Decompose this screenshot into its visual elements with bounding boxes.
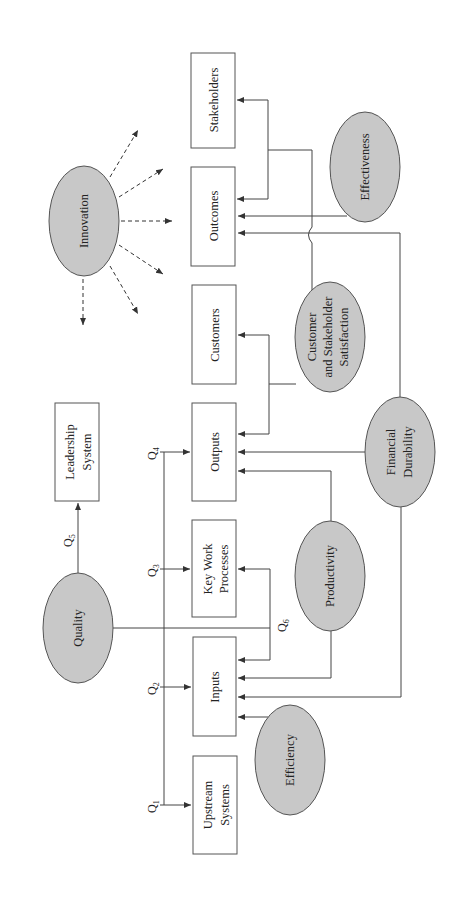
box-outputs: Outputs (192, 403, 236, 501)
kwp-label-line1: Key Work (201, 543, 215, 595)
satisfaction-label-line1: Customer (305, 312, 319, 361)
q2-label: Q2 (145, 682, 161, 695)
ellipse-quality: Quality (43, 573, 113, 683)
satisfaction-label-line2: and Stakeholder (321, 296, 335, 378)
stakeholders-label: Stakeholders (207, 68, 221, 133)
box-key-work-processes: Key Work Processes (192, 520, 236, 617)
upstream-label-line1: Upstream (201, 780, 215, 829)
ellipse-productivity: Productivity (295, 521, 365, 631)
box-customers: Customers (192, 285, 236, 384)
ellipse-financial-durability: Financial Durability (365, 397, 435, 507)
efficiency-label: Efficiency (283, 733, 297, 786)
outcomes-label: Outcomes (207, 191, 221, 242)
inputs-label: Inputs (208, 671, 222, 702)
outputs-label: Outputs (208, 432, 222, 472)
ellipse-innovation: Innovation (49, 166, 119, 276)
quality-label: Quality (71, 609, 85, 647)
q5-label: Q5 (61, 534, 77, 547)
financial-label-line1: Financial (384, 428, 398, 475)
leadership-label-line2: System (80, 433, 94, 470)
q4-label: Q4 (145, 447, 161, 460)
q6-label: Q6 (275, 619, 291, 632)
performance-system-diagram: Stakeholders Outcomes Customers Outputs … (0, 0, 465, 906)
q1-label: Q1 (145, 800, 161, 813)
effectiveness-label: Effectiveness (358, 133, 372, 200)
kwp-label-line2: Processes (217, 545, 231, 594)
box-inputs: Inputs (193, 637, 236, 736)
ellipse-customer-stakeholder-satisfaction: Customer and Stakeholder Satisfaction (295, 282, 365, 392)
ellipse-effectiveness: Effectiveness (330, 112, 400, 222)
productivity-label: Productivity (323, 544, 337, 607)
box-leadership-system: Leadership System (55, 403, 99, 501)
upstream-label-line2: Systems (218, 784, 232, 826)
box-stakeholders: Stakeholders (191, 53, 235, 148)
financial-label-line2: Durability (401, 426, 415, 478)
leadership-label-line1: Leadership (63, 424, 77, 480)
customers-label: Customers (208, 308, 222, 362)
q3-label: Q3 (145, 564, 161, 577)
satisfaction-label-line3: Satisfaction (337, 307, 351, 367)
ellipse-efficiency: Efficiency (255, 705, 325, 815)
box-upstream-systems: Upstream Systems (193, 756, 237, 854)
box-outcomes: Outcomes (191, 167, 235, 266)
innovation-label: Innovation (77, 193, 91, 248)
